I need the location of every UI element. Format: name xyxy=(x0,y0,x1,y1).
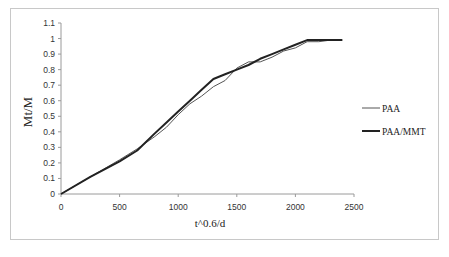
legend-item: PAA/MMT xyxy=(362,127,426,137)
y-tick-label: 0.3 xyxy=(43,142,55,152)
x-tick-label: 1500 xyxy=(227,202,246,212)
y-tick-label: 0.8 xyxy=(43,65,55,75)
legend: PAAPAA/MMT xyxy=(362,104,426,137)
axes: 00.10.20.30.40.50.60.70.80.911.105001000… xyxy=(43,18,364,212)
y-tick-label: 0.7 xyxy=(43,80,55,90)
y-tick-label: 0.4 xyxy=(43,127,55,137)
legend-item: PAA xyxy=(362,104,400,114)
y-tick-label: 0.2 xyxy=(43,158,55,168)
x-tick-label: 500 xyxy=(113,202,127,212)
x-tick-label: 0 xyxy=(59,202,64,212)
x-tick-label: 2500 xyxy=(345,202,364,212)
series-lines xyxy=(61,40,342,194)
y-tick-label: 0 xyxy=(50,189,55,199)
x-axis-label: t^0.6/d xyxy=(195,217,226,229)
legend-label: PAA/MMT xyxy=(382,127,426,137)
line-chart: 00.10.20.30.40.50.60.70.80.911.105001000… xyxy=(0,0,449,257)
y-axis-label: Mt/M xyxy=(20,96,35,127)
series-line-paa-mmt xyxy=(61,40,342,194)
y-tick-label: 0.1 xyxy=(43,173,55,183)
x-tick-label: 1000 xyxy=(169,202,188,212)
y-tick-label: 0.5 xyxy=(43,111,55,121)
y-tick-label: 1 xyxy=(50,34,55,44)
y-tick-label: 0.6 xyxy=(43,96,55,106)
legend-label: PAA xyxy=(382,104,400,114)
y-tick-label: 1.1 xyxy=(43,18,55,28)
y-tick-label: 0.9 xyxy=(43,49,55,59)
x-tick-label: 2000 xyxy=(286,202,305,212)
